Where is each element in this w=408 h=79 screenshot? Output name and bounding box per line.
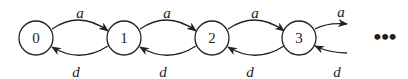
edge-label-a: a <box>163 5 171 21</box>
edge-label-d: d <box>246 64 254 79</box>
edge-label-d: d <box>159 64 167 79</box>
edge-1-to-2 <box>140 20 196 31</box>
edge-2-to-3 <box>228 20 284 31</box>
state-2: 2 <box>195 21 229 55</box>
state-label: 1 <box>120 30 128 46</box>
state-label: 0 <box>32 30 40 46</box>
edge-2-to-1 <box>140 46 196 55</box>
edge-label-a: a <box>251 5 259 21</box>
state-label: 3 <box>295 30 303 46</box>
edge-next-to-3 <box>315 46 347 53</box>
state-1: 1 <box>107 21 141 55</box>
edge-label-a: a <box>337 4 345 20</box>
edge-0-to-1 <box>52 20 108 31</box>
edge-label-d: d <box>72 64 80 79</box>
edge-3-to-next <box>315 24 347 29</box>
state-diagram: 0 1 2 3 a a a a d d d d ••• <box>0 0 408 79</box>
edge-label-a: a <box>76 5 84 21</box>
state-3: 3 <box>282 21 316 55</box>
continuation-ellipsis: ••• <box>373 24 396 49</box>
edge-label-d: d <box>333 64 341 79</box>
edge-1-to-0 <box>52 46 108 55</box>
state-0: 0 <box>19 21 53 55</box>
state-label: 2 <box>208 30 216 46</box>
edge-3-to-2 <box>228 46 284 55</box>
